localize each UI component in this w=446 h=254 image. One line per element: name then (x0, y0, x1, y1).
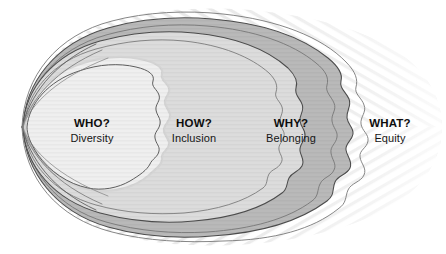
zone-label-who: WHO? Diversity (56, 117, 128, 145)
zone-question-what: WHAT? (352, 117, 428, 131)
zone-concept-inclusion: Inclusion (158, 132, 230, 145)
zone-label-why: WHY? Belonging (252, 117, 330, 145)
zone-concept-belonging: Belonging (252, 132, 330, 145)
zone-question-how: HOW? (158, 117, 230, 131)
zone-concept-diversity: Diversity (56, 132, 128, 145)
zone-question-why: WHY? (252, 117, 330, 131)
zone-question-who: WHO? (56, 117, 128, 131)
zone-label-what: WHAT? Equity (352, 117, 428, 145)
zone-label-how: HOW? Inclusion (158, 117, 230, 145)
diagram-canvas: WHO? Diversity HOW? Inclusion WHY? Belon… (0, 0, 446, 254)
zone-concept-equity: Equity (352, 132, 428, 145)
